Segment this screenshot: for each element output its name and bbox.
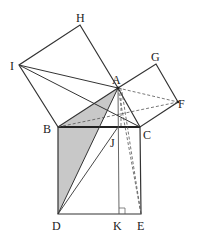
label-d: D: [52, 219, 61, 233]
square-acfg: [118, 64, 178, 127]
label-b: B: [43, 122, 51, 136]
label-i: I: [10, 59, 14, 73]
shaded-overlap: [58, 127, 90, 214]
segment-ia: [19, 65, 118, 88]
label-h: H: [76, 11, 85, 25]
dashed-ae: [118, 88, 141, 214]
label-e: E: [137, 219, 144, 233]
altitude-ak: [118, 88, 119, 214]
dashed-af: [118, 88, 178, 102]
label-f: F: [178, 97, 185, 111]
label-k: K: [113, 219, 122, 233]
label-a: A: [112, 73, 121, 87]
pythagorean-diagram: A B C D E F G H I J K: [0, 0, 198, 238]
label-j: J: [110, 136, 115, 150]
right-angle-marker: [119, 208, 125, 214]
label-g: G: [151, 50, 160, 64]
label-c: C: [143, 128, 151, 142]
